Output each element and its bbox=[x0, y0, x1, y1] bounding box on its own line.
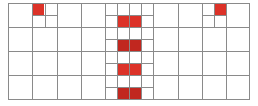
grid-cell[interactable] bbox=[202, 51, 226, 75]
grid-line-horizontal bbox=[202, 15, 227, 16]
grid-cell[interactable] bbox=[81, 51, 105, 75]
grid-cell[interactable] bbox=[178, 27, 202, 51]
grid-line-horizontal bbox=[32, 15, 58, 16]
grid-cell[interactable] bbox=[81, 75, 105, 99]
grid-cell[interactable] bbox=[32, 51, 57, 75]
grid-cell[interactable] bbox=[81, 3, 105, 27]
grid-line-vertical bbox=[129, 3, 130, 100]
grid-cell[interactable] bbox=[8, 3, 32, 27]
grid-cell[interactable] bbox=[202, 27, 226, 51]
grid-cell[interactable] bbox=[226, 3, 249, 27]
grid-line-horizontal bbox=[105, 39, 154, 40]
grid-cell[interactable] bbox=[178, 3, 202, 27]
grid-cell[interactable] bbox=[32, 75, 57, 99]
grid-cell[interactable] bbox=[8, 51, 32, 75]
grid-cell[interactable] bbox=[57, 27, 81, 51]
grid-cell[interactable] bbox=[226, 75, 249, 99]
grid-cell[interactable] bbox=[202, 75, 226, 99]
grid-cell[interactable] bbox=[153, 75, 178, 99]
grid-cell[interactable] bbox=[178, 51, 202, 75]
grid-cell[interactable] bbox=[57, 75, 81, 99]
grid-cell[interactable] bbox=[226, 27, 249, 51]
grid-cell[interactable] bbox=[57, 51, 81, 75]
grid-cell[interactable] bbox=[8, 27, 32, 51]
grid-cell[interactable] bbox=[32, 27, 57, 51]
grid-line-vertical bbox=[117, 3, 118, 100]
grid-cell[interactable] bbox=[178, 75, 202, 99]
grid-cell[interactable] bbox=[8, 75, 32, 99]
grid-cell[interactable] bbox=[57, 3, 81, 27]
grid-line-vertical bbox=[141, 3, 142, 100]
grid-cell[interactable] bbox=[153, 27, 178, 51]
grid-line-horizontal bbox=[105, 63, 154, 64]
grid-line-horizontal bbox=[105, 15, 154, 16]
grid-cell[interactable] bbox=[81, 27, 105, 51]
grid-cell[interactable] bbox=[153, 3, 178, 27]
grid-board bbox=[0, 0, 258, 106]
grid-cell[interactable] bbox=[226, 51, 249, 75]
grid-cell[interactable] bbox=[153, 51, 178, 75]
grid-line-horizontal bbox=[105, 87, 154, 88]
